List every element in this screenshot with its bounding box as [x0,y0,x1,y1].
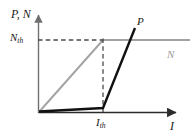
x-tick-label-ith: Ith [96,117,105,128]
curve-label-p: P [137,16,144,27]
laser-diode-power-carrier-vs-current-figure: P, N I Nth Ith P N [0,0,193,140]
y-tick-label-nth: Nth [10,32,23,43]
y-axis-label: P, N [11,8,31,20]
curve-label-n: N [167,49,174,60]
ith-subscript: th [100,121,106,130]
nth-subscript: th [17,36,23,45]
x-axis-label: I [170,120,174,132]
